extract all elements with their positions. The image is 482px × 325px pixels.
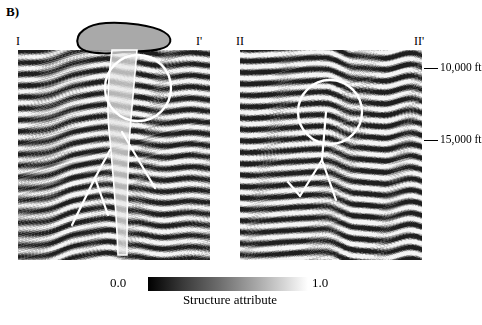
depth-tick-10000 bbox=[424, 68, 438, 69]
colorbar-title: Structure attribute bbox=[140, 292, 320, 308]
salt-body-annotation bbox=[77, 23, 170, 54]
section-label-II-prime: II' bbox=[414, 34, 424, 49]
depth-label-15000: 15,000 ft bbox=[440, 133, 482, 145]
seismic-section-left bbox=[18, 50, 210, 260]
depth-label-10000: 10,000 ft bbox=[440, 61, 482, 73]
seismic-image-left bbox=[18, 50, 210, 260]
section-label-II: II bbox=[236, 34, 244, 49]
panel-label-b: B) bbox=[6, 4, 19, 20]
seismic-image-right bbox=[240, 50, 422, 260]
colorbar-max-label: 1.0 bbox=[312, 275, 328, 291]
colorbar bbox=[148, 277, 308, 291]
section-label-I: I bbox=[16, 34, 20, 49]
section-label-I-prime: I' bbox=[196, 34, 202, 49]
colorbar-gradient bbox=[148, 277, 308, 291]
seismic-section-right bbox=[240, 50, 422, 260]
depth-tick-15000 bbox=[424, 140, 438, 141]
colorbar-min-label: 0.0 bbox=[110, 275, 126, 291]
